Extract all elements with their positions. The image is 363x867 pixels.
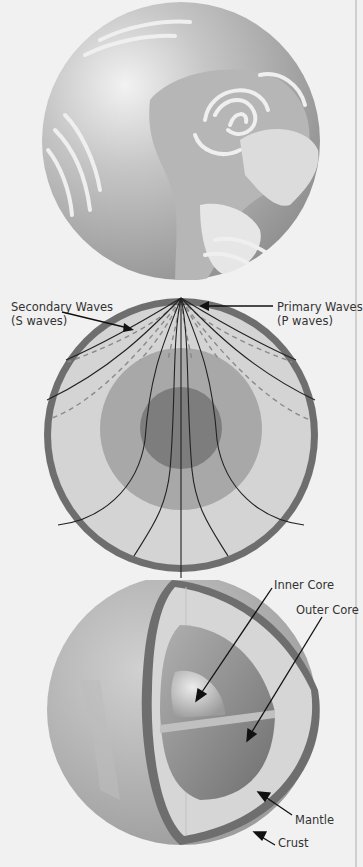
globe-illustration [0,0,359,280]
layer-pointer-arrows-icon [0,580,359,867]
p-waves-arrow-icon [0,295,359,325]
